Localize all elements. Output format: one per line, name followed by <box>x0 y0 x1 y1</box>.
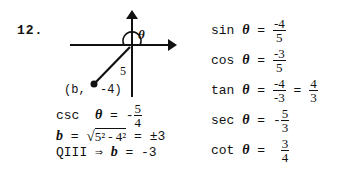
point-label: (b, -4) <box>64 83 122 97</box>
csc-equation: csc θ = -54 <box>56 101 142 129</box>
hypotenuse-label: 5 <box>120 64 126 79</box>
x-axis-arrow-icon <box>168 39 177 51</box>
sin-equation: sin θ = -45 <box>211 16 286 44</box>
problem-number: 12. <box>17 23 43 38</box>
tan-equation: tan θ = -4-3 = 43 <box>211 76 318 104</box>
sec-equation: sec θ = -53 <box>211 106 289 134</box>
cos-equation: cos θ = -35 <box>211 46 286 74</box>
quadrant-conclusion: QIII ⇒ b = -3 <box>56 143 157 161</box>
cot-equation: cot θ = 34 <box>211 136 289 164</box>
theta-label: θ <box>138 27 145 43</box>
y-axis-arrow-icon <box>126 10 138 19</box>
